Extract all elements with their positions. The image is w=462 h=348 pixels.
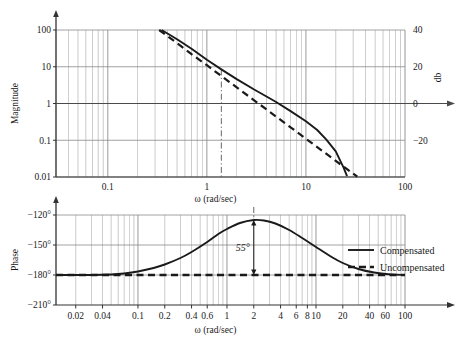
magnitude-db-tick-label: 0 (413, 99, 418, 109)
phase-x-tick-label: 10 (311, 311, 321, 321)
phase-x-axis-label: ω (rad/sec) (195, 325, 237, 336)
magnitude-y-tick-label: 100 (37, 25, 52, 35)
phase-y-tick-label: −180° (28, 270, 52, 280)
phase-x-tick-label: 6 (294, 311, 299, 321)
magnitude-db-axis-label: db (433, 73, 443, 83)
magnitude-db-tick-label: 40 (413, 25, 423, 35)
phase-margin-annotation-label: 55° (236, 242, 250, 253)
magnitude-y-tick-label: 10 (42, 62, 52, 72)
bode-plot-figure: 0.010.1110100−2002040db0.1110100ω (rad/s… (0, 0, 462, 348)
phase-x-tick-label: 0.04 (94, 311, 111, 321)
phase-y-tick-label: −120° (28, 210, 52, 220)
phase-y-axis-arrow (53, 196, 59, 203)
magnitude-db-tick-label: −20 (413, 136, 428, 146)
phase-x-tick-label: 2 (251, 311, 256, 321)
magnitude-db-tick-label: 20 (413, 62, 423, 72)
phase-x-tick-label: 40 (365, 311, 375, 321)
phase-x-tick-label: 20 (338, 311, 348, 321)
phase-y-tick-label: −150° (28, 240, 52, 250)
phase-x-tick-label: 0.2 (159, 311, 171, 321)
phase-x-axis-arrow (447, 302, 455, 308)
magnitude-y-axis-label: Magnitude (10, 83, 20, 124)
magnitude-y-axis-arrow (53, 10, 59, 17)
phase-x-tick-label: 0.1 (132, 311, 144, 321)
phase-x-tick-label: 0.4 (186, 311, 198, 321)
magnitude-x-axis-label: ω (rad/sec) (195, 194, 237, 205)
phase-x-tick-label: 60 (381, 311, 391, 321)
legend-label-uncompensated: Uncompensated (380, 262, 444, 273)
magnitude-x-tick-label: 10 (301, 182, 311, 192)
phase-y-axis-label: Phase (10, 249, 20, 271)
magnitude-y-tick-label: 0.1 (39, 136, 51, 146)
phase-x-tick-label: 100 (398, 311, 413, 321)
magnitude-x-tick-label: 100 (398, 182, 413, 192)
legend-label-compensated: Compensated (380, 245, 434, 256)
phase-x-tick-label: 0.02 (67, 311, 84, 321)
phase-x-tick-label: 4 (278, 311, 283, 321)
magnitude-x-tick-label: 1 (204, 182, 209, 192)
magnitude-y-tick-label: 1 (46, 99, 51, 109)
phase-x-tick-label: 0.6 (201, 311, 213, 321)
phase-y-tick-label: −210° (28, 300, 52, 310)
phase-x-tick-label: 1 (225, 311, 230, 321)
magnitude-0db-axis-arrow (447, 101, 455, 107)
phase-x-tick-label: 8 (305, 311, 310, 321)
magnitude-y-tick-label: 0.01 (34, 172, 51, 182)
magnitude-x-tick-label: 0.1 (102, 182, 114, 192)
bode-plot-svg: 0.010.1110100−2002040db0.1110100ω (rad/s… (0, 0, 462, 348)
